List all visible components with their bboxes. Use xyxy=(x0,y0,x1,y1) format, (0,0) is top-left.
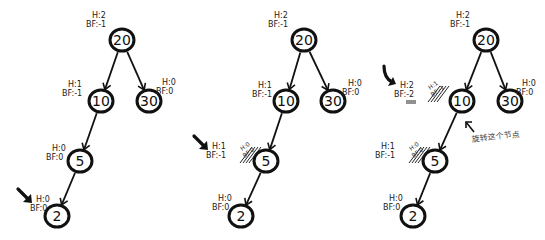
balance-factor-label: BF:0 xyxy=(46,153,63,162)
balance-factor-label: BF:-1 xyxy=(450,20,470,29)
height-label: H:1 xyxy=(68,80,82,89)
balance-factor-label: BF:-1 xyxy=(206,151,226,160)
balance-factor-label: BF:0 xyxy=(30,204,47,213)
node-key: 5 xyxy=(431,153,440,169)
edge-10-5 xyxy=(270,113,282,149)
height-label: H:0 xyxy=(162,78,176,87)
balance-factor-label: BF:0 xyxy=(383,203,400,212)
tree-node-5: 5H:1BF:-1H:0BF:0 xyxy=(375,140,447,172)
rotate-note: 旋转这个节点 xyxy=(471,129,520,144)
height-label: H:2 xyxy=(456,11,470,20)
tree-node-30: 30H:0BF:0 xyxy=(321,79,362,112)
node-key: 2 xyxy=(237,208,246,224)
balance-factor-label: BF:0 xyxy=(342,88,359,97)
pointer-arrow-icon xyxy=(194,136,208,150)
edge-20-10 xyxy=(289,52,300,89)
tree-node-20: 20H:2BF:-1 xyxy=(268,11,316,51)
tree-node-20: 20H:2BF:-1 xyxy=(86,11,134,51)
tree-node-5: 5H:1BF:-1H:0BF:0 xyxy=(206,140,278,172)
tree-node-2: 2H:0BF:0 xyxy=(212,194,253,227)
height-label: H:0 xyxy=(218,194,232,203)
node-key: 5 xyxy=(76,153,85,169)
node-key: 20 xyxy=(295,32,313,48)
panel-3: 20H:2BF:-110H:2BF:-2H:1BF:-130H:0BF:05H:… xyxy=(375,11,536,227)
balance-factor-label: BF:0 xyxy=(212,203,229,212)
height-label: H:1 xyxy=(212,142,226,151)
height-label: H:0 xyxy=(522,79,536,88)
edge-5-2 xyxy=(417,173,430,205)
height-label: H:2 xyxy=(400,81,414,90)
edge-20-30 xyxy=(310,52,328,90)
node-key: 20 xyxy=(477,32,495,48)
balance-factor-label: BF:0 xyxy=(156,87,173,96)
height-label: H:0 xyxy=(36,195,50,204)
panel-1: 20H:2BF:-110H:1BF:-130H:0BF:05H:0BF:02H:… xyxy=(18,11,176,227)
balance-factor-label: BF:-1 xyxy=(86,20,106,29)
edge-10-5 xyxy=(440,113,457,150)
node-key: 5 xyxy=(262,153,271,169)
note-arrow-icon xyxy=(466,122,474,132)
balance-factor-label: BF:0 xyxy=(516,88,533,97)
node-key: 2 xyxy=(409,208,418,224)
pointer-arrow-icon xyxy=(384,66,396,86)
balance-factor-label: BF:-1 xyxy=(62,89,82,98)
avl-diagram: 20H:2BF:-110H:1BF:-130H:0BF:05H:0BF:02H:… xyxy=(0,0,545,240)
height-label: H:0 xyxy=(52,144,66,153)
tree-node-10: 10H:1BF:-1 xyxy=(62,80,113,112)
balance-factor-label: BF:-1 xyxy=(268,20,288,29)
edge-20-10 xyxy=(466,52,481,90)
height-label: H:2 xyxy=(92,11,106,20)
edge-10-5 xyxy=(84,113,97,149)
edge-20-30 xyxy=(491,52,506,90)
balance-factor-label: BF:-1 xyxy=(252,90,272,99)
edge-5-2 xyxy=(62,173,75,205)
tree-node-20: 20H:2BF:-1 xyxy=(450,11,498,51)
height-label: H:0 xyxy=(348,79,362,88)
balance-factor-label: BF:-1 xyxy=(375,151,395,160)
node-key: 10 xyxy=(453,93,471,109)
tree-node-30: 30H:0BF:0 xyxy=(137,78,176,112)
tree-node-10: 10H:2BF:-2H:1BF:-1 xyxy=(394,79,474,112)
panel-2: 20H:2BF:-110H:1BF:-130H:0BF:05H:1BF:-1H:… xyxy=(194,11,362,227)
height-label: H:1 xyxy=(381,142,395,151)
height-label: H:2 xyxy=(274,11,288,20)
balance-factor-label: BF:-2 xyxy=(394,90,414,99)
edge-20-30 xyxy=(127,52,144,90)
edge-5-2 xyxy=(246,173,261,205)
node-key: 30 xyxy=(324,93,342,109)
tree-node-2: 2H:0BF:0 xyxy=(383,194,425,227)
node-key: 20 xyxy=(113,32,131,48)
node-key: 10 xyxy=(277,93,295,109)
node-key: 2 xyxy=(53,208,62,224)
struck-old-values: H:1BF:-1 xyxy=(427,79,449,102)
node-key: 10 xyxy=(92,93,110,109)
edge-20-10 xyxy=(105,52,118,89)
height-label: H:1 xyxy=(258,81,272,90)
height-label: H:0 xyxy=(389,194,403,203)
pointer-arrow-icon xyxy=(18,189,32,203)
